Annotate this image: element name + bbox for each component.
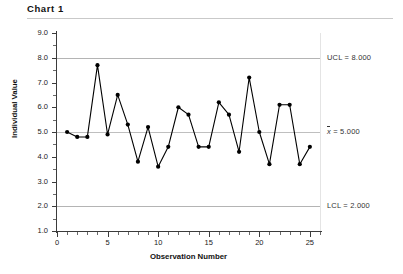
data-point [308,145,312,149]
data-point [207,145,211,149]
data-point [156,165,160,169]
data-point [95,63,99,67]
data-point [288,103,292,107]
data-point [267,162,271,166]
data-series-individual-value [0,0,403,274]
data-point [166,145,170,149]
data-point [146,125,150,129]
chart-page: Chart 1 Individual Value Observation Num… [0,0,403,274]
data-point [197,145,201,149]
data-point [186,113,190,117]
data-point [105,132,109,136]
data-point [116,93,120,97]
data-point [298,162,302,166]
data-point [65,130,69,134]
data-point [126,122,130,126]
data-point [217,100,221,104]
data-point [247,75,251,79]
data-point [85,135,89,139]
data-point [75,135,79,139]
data-point [237,150,241,154]
data-point [176,105,180,109]
data-point [257,130,261,134]
data-point [227,113,231,117]
data-point [277,103,281,107]
data-point [136,160,140,164]
